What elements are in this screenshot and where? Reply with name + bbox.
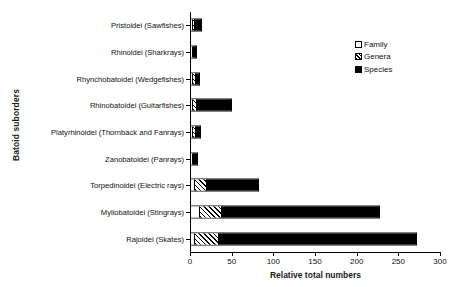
stacked-bar[interactable] <box>190 72 200 85</box>
bar-row: Rajoidei (Skates) <box>190 225 440 252</box>
legend-swatch-species <box>355 66 362 73</box>
x-axis-tick-label: 200 <box>350 257 363 266</box>
bar-segment-genera <box>194 233 218 244</box>
legend-swatch-family <box>355 41 362 48</box>
legend-item[interactable]: Family <box>355 38 392 51</box>
x-axis-tick <box>398 252 399 256</box>
x-axis-tick-label: 50 <box>227 257 236 266</box>
x-axis-tick <box>440 252 441 256</box>
stacked-bar[interactable] <box>190 179 259 192</box>
legend-item[interactable]: Genera <box>355 51 392 64</box>
category-label: Torpedinoidei (Electric rays) <box>90 181 184 190</box>
bar-row: Torpedinoidei (Electric rays) <box>190 172 440 199</box>
stacked-bar[interactable] <box>190 205 380 218</box>
stacked-bar[interactable] <box>190 125 201 138</box>
bar-segment-species <box>195 126 200 137</box>
x-axis-tick-label: 300 <box>433 257 446 266</box>
bar-row: Myliobatoidei (Stingrays) <box>190 199 440 226</box>
bar-row: Rhinoidei (Sharkrays) <box>190 39 440 66</box>
legend-label: Genera <box>364 52 391 61</box>
bar-row: Platyrhinoidei (Thornback and Fanrays) <box>190 119 440 146</box>
bar-segment-genera <box>194 180 206 191</box>
bar-row: Zanobatoidei (Panrays) <box>190 145 440 172</box>
legend-item[interactable]: Species <box>355 63 392 76</box>
bar-row: Rhinobatoidei (Guitarfishes) <box>190 92 440 119</box>
bar-segment-species <box>218 233 416 244</box>
x-axis-tick-label: 0 <box>188 257 192 266</box>
x-axis-tick-label: 100 <box>267 257 280 266</box>
category-label: Myliobatoidei (Stingrays) <box>101 207 184 216</box>
chart-figure: Batoid suborders Pristoidei (Sawfishes)R… <box>0 0 450 287</box>
category-label: Pristoidei (Sawfishes) <box>111 21 184 30</box>
category-label: Rhinobatoidei (Guitarfishes) <box>90 101 184 110</box>
bar-row: Rhynchobatoidei (Wedgefishes) <box>190 65 440 92</box>
category-label: Rajoidei (Skates) <box>126 234 184 243</box>
x-axis-tick <box>357 252 358 256</box>
category-label: Rhinoidei (Sharkrays) <box>111 47 184 56</box>
x-axis-title: Relative total numbers <box>190 270 441 280</box>
bar-segment-species <box>195 73 199 84</box>
bar-segment-species <box>221 206 379 217</box>
category-label: Zanobatoidei (Panrays) <box>105 154 184 163</box>
legend-swatch-genera <box>355 53 362 60</box>
bar-segment-species <box>194 20 202 31</box>
x-axis-tick-label: 250 <box>392 257 405 266</box>
category-label: Platyrhinoidei (Thornback and Fanrays) <box>51 127 184 136</box>
x-axis-tick-label: 150 <box>308 257 321 266</box>
x-axis-tick <box>190 252 191 256</box>
bar-segment-species <box>206 180 258 191</box>
chart-legend: FamilyGeneraSpecies <box>355 38 392 76</box>
plot-area: Pristoidei (Sawfishes)Rhinoidei (Sharkra… <box>190 12 440 252</box>
legend-label: Species <box>364 65 392 74</box>
x-axis-tick <box>232 252 233 256</box>
stacked-bar[interactable] <box>190 232 417 245</box>
y-axis-title: Batoid suborders <box>11 65 21 185</box>
bar-segment-genera <box>199 206 222 217</box>
x-axis-tick <box>273 252 274 256</box>
bar-segment-species <box>193 46 196 57</box>
x-axis-tick <box>315 252 316 256</box>
bar-segment-species <box>193 153 196 164</box>
category-label: Rhynchobatoidei (Wedgefishes) <box>77 74 185 83</box>
stacked-bar[interactable] <box>190 99 232 112</box>
stacked-bar[interactable] <box>190 19 202 32</box>
stacked-bar[interactable] <box>190 45 197 58</box>
legend-label: Family <box>364 40 388 49</box>
bar-row: Pristoidei (Sawfishes) <box>190 12 440 39</box>
bar-segment-family <box>191 206 199 217</box>
bar-segment-species <box>196 100 232 111</box>
stacked-bar[interactable] <box>190 152 198 165</box>
